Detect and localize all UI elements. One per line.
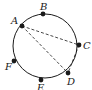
segment-ac	[22, 26, 79, 45]
label-e: E	[36, 82, 45, 90]
point-c	[77, 43, 82, 48]
label-c: C	[83, 40, 91, 51]
label-f: F	[4, 61, 13, 72]
circle-diagram: ABCDEF	[0, 0, 92, 90]
segment-ad	[22, 26, 68, 73]
point-f	[12, 59, 17, 64]
point-b	[41, 12, 46, 17]
label-a: A	[10, 15, 18, 26]
points	[12, 12, 82, 83]
point-d	[66, 71, 71, 76]
label-b: B	[39, 1, 47, 12]
label-d: D	[66, 76, 75, 87]
dashed-segments	[22, 26, 79, 73]
circle	[13, 14, 77, 78]
point-a	[20, 24, 25, 29]
segment-cd	[68, 45, 79, 73]
